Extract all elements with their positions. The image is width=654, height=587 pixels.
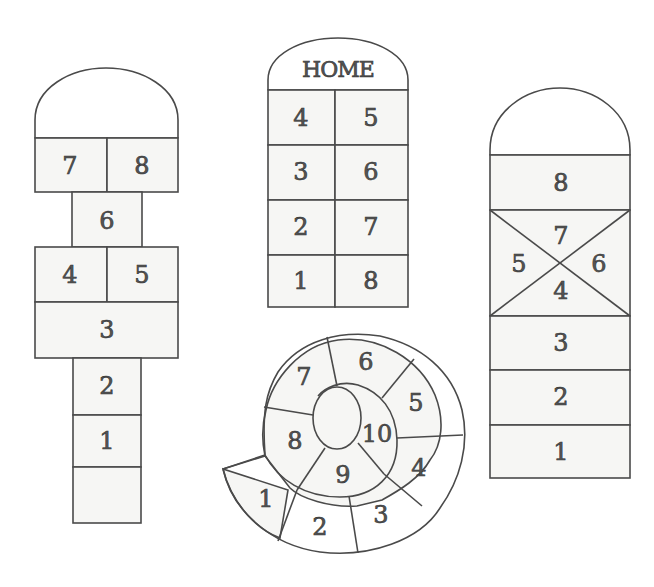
court-cross: 8 7 5 6 4 3 2 1 (490, 88, 630, 478)
label-3: 3 (99, 316, 114, 344)
label-4: 4 (553, 277, 568, 305)
label-6: 6 (358, 348, 373, 376)
spiral-outer (223, 339, 441, 538)
label-10: 10 (362, 420, 393, 448)
label-6: 6 (363, 158, 378, 186)
label-6: 6 (591, 250, 606, 278)
label-2: 2 (312, 513, 327, 541)
label-2: 2 (99, 372, 114, 400)
label-4: 4 (411, 454, 426, 482)
court-spiral: 1 2 3 4 5 6 7 8 9 10 (223, 334, 465, 553)
label-5: 5 (408, 389, 423, 417)
label-7: 7 (62, 152, 77, 180)
label-7: 7 (553, 222, 568, 250)
label-1: 1 (553, 438, 568, 466)
drawing-canvas: 7 8 6 4 5 3 2 1 HOME 4 5 3 6 2 7 1 8 (0, 0, 654, 587)
label-3: 3 (553, 329, 568, 357)
hopscotch-illustration: 7 8 6 4 5 3 2 1 HOME 4 5 3 6 2 7 1 8 (0, 0, 654, 587)
dome-classic (35, 68, 178, 138)
label-5: 5 (134, 261, 149, 289)
label-8: 8 (287, 427, 302, 455)
label-6: 6 (99, 207, 114, 235)
label-7: 7 (296, 363, 311, 391)
label-2: 2 (553, 383, 568, 411)
court-classic: 7 8 6 4 5 3 2 1 (35, 68, 178, 523)
label-3: 3 (293, 158, 308, 186)
label-7: 7 (363, 213, 378, 241)
label-4: 4 (293, 104, 308, 132)
label-8: 8 (134, 152, 149, 180)
label-4: 4 (62, 261, 77, 289)
label-1: 1 (99, 427, 114, 455)
dome-cross (490, 88, 630, 155)
label-1: 1 (293, 267, 308, 295)
label-8: 8 (363, 267, 378, 295)
label-9: 9 (335, 461, 350, 489)
court-home: HOME 4 5 3 6 2 7 1 8 (268, 38, 408, 307)
label-5: 5 (511, 250, 526, 278)
cell-blank (73, 467, 141, 523)
label-1: 1 (258, 485, 273, 513)
home-label: HOME (302, 57, 374, 82)
label-3: 3 (373, 501, 388, 529)
label-5: 5 (363, 104, 378, 132)
label-8: 8 (553, 169, 568, 197)
label-2: 2 (293, 213, 308, 241)
